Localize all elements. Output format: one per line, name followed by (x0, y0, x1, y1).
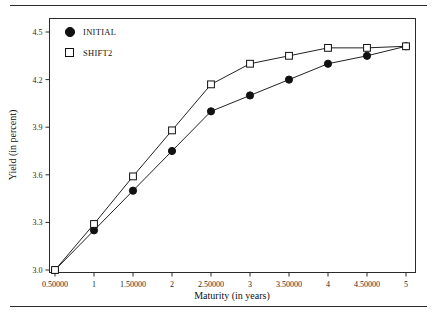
x-tick-label: 4 (326, 280, 330, 289)
x-axis-tick-labels: 0.5000011.5000022.5000033.5000044.500005 (42, 280, 408, 289)
legend-marker-initial (65, 27, 74, 36)
y-tick-label: 3.9 (33, 123, 43, 132)
data-point-shift2 (325, 44, 332, 51)
x-axis-ticks (55, 273, 406, 277)
x-tick-label: 2.50000 (198, 280, 224, 289)
data-point-initial (129, 187, 136, 194)
data-point-shift2 (286, 52, 293, 59)
legend-label-initial: INITIAL (83, 27, 116, 37)
x-tick-label: 1.50000 (120, 280, 146, 289)
y-tick-label: 3.6 (33, 171, 43, 180)
x-tick-label: 0.50000 (42, 280, 68, 289)
legend-marker-shift2 (66, 49, 74, 57)
data-point-shift2 (247, 60, 254, 67)
series-line-initial (55, 46, 406, 270)
line-chart: 3.03.33.63.94.24.5 0.5000011.5000022.500… (0, 0, 437, 317)
series-line-shift2 (55, 46, 406, 270)
chart-figure: 3.03.33.63.94.24.5 0.5000011.5000022.500… (0, 0, 437, 317)
x-tick-label: 5 (404, 280, 408, 289)
y-tick-label: 3.0 (33, 266, 43, 275)
chart-legend: INITIAL SHIFT2 (65, 27, 116, 58)
y-tick-label: 3.3 (33, 218, 43, 227)
series-markers (51, 43, 409, 274)
x-tick-label: 4.50000 (354, 280, 380, 289)
data-point-initial (285, 76, 292, 83)
data-point-shift2 (364, 44, 371, 51)
legend-label-shift2: SHIFT2 (83, 48, 113, 58)
y-axis-ticks (46, 32, 50, 270)
data-point-shift2 (91, 221, 98, 228)
data-point-initial (207, 108, 214, 115)
x-tick-label: 3.50000 (276, 280, 302, 289)
data-point-shift2 (130, 173, 137, 180)
data-point-initial (168, 147, 175, 154)
data-point-initial (363, 52, 370, 59)
series-lines (55, 46, 406, 270)
y-axis-title: Yield (in percent) (7, 110, 19, 181)
x-tick-label: 1 (92, 280, 96, 289)
data-point-initial (246, 92, 253, 99)
x-tick-label: 2 (170, 280, 174, 289)
y-tick-label: 4.2 (33, 76, 43, 85)
data-point-initial (324, 60, 331, 67)
y-axis-tick-labels: 3.03.33.63.94.24.5 (33, 28, 43, 275)
data-point-shift2 (403, 43, 410, 50)
data-point-shift2 (208, 81, 215, 88)
x-tick-label: 3 (248, 280, 252, 289)
x-axis-title: Maturity (in years) (194, 290, 270, 302)
y-tick-label: 4.5 (33, 28, 43, 37)
data-point-shift2 (169, 127, 176, 134)
data-point-shift2 (52, 267, 59, 274)
